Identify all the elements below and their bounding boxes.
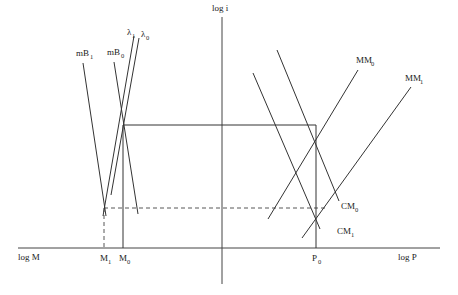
curve-lambda1: [103, 36, 134, 216]
tick-label-p0: P 0: [312, 253, 321, 265]
axis-label-log-i: log i: [212, 3, 229, 13]
svg-text:1: 1: [351, 231, 354, 238]
svg-text:0: 0: [318, 258, 321, 265]
svg-text:CM: CM: [341, 201, 355, 211]
svg-text:mB: mB: [107, 47, 120, 57]
svg-text:1: 1: [108, 258, 111, 265]
axis-label-log-m: log M: [18, 252, 40, 262]
curve-cm1: [253, 73, 320, 229]
svg-text:1: 1: [132, 32, 135, 39]
curve-mm1: [302, 87, 411, 238]
svg-text:M: M: [119, 253, 127, 263]
curve-mb1: [83, 63, 106, 216]
svg-text:1: 1: [90, 53, 93, 60]
svg-text:0: 0: [371, 60, 374, 67]
curve-lambda0: [111, 38, 139, 195]
svg-text:MM: MM: [356, 55, 372, 65]
label-lambda0: λ 0: [141, 29, 149, 41]
label-mm0: MM 0: [356, 55, 374, 67]
tick-label-m1: M 1: [100, 253, 111, 265]
label-lambda1: λ 1: [127, 27, 135, 39]
svg-text:MM: MM: [405, 73, 421, 83]
monetary-diagram: log i log M log P mB 1 mB 0 λ 1 λ 0 MM 0…: [0, 0, 458, 295]
svg-text:1: 1: [420, 78, 423, 85]
label-mm1: MM 1: [405, 73, 423, 85]
svg-text:0: 0: [146, 34, 149, 41]
tick-label-m0: M 0: [119, 253, 130, 265]
svg-text:CM: CM: [337, 226, 351, 236]
svg-text:M: M: [100, 253, 108, 263]
curve-mm0: [268, 70, 358, 219]
axis-label-log-p: log P: [398, 252, 417, 262]
svg-text:mB: mB: [76, 48, 89, 58]
svg-text:0: 0: [127, 258, 130, 265]
svg-text:0: 0: [355, 206, 358, 213]
label-mb1: mB 1: [76, 48, 93, 60]
label-cm1: CM 1: [337, 226, 354, 238]
label-mb0: mB 0: [107, 47, 124, 59]
label-cm0: CM 0: [341, 201, 358, 213]
svg-text:P: P: [312, 253, 317, 263]
svg-text:0: 0: [121, 52, 124, 59]
